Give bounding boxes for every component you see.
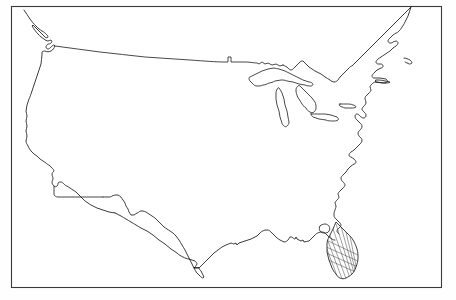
us-outline-map-svg [0, 0, 456, 300]
map-figure: Blank black and white outline map of the… [0, 0, 456, 300]
